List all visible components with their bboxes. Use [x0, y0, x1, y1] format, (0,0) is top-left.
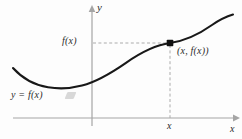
point-marker: [167, 40, 174, 47]
y-axis-arrowhead: [89, 5, 96, 12]
y-axis: [89, 5, 96, 126]
x-tick-label: x: [167, 121, 172, 131]
x-axis: [13, 115, 240, 122]
curve-equation-label: y = f(x): [11, 90, 43, 100]
y-value-label: f(x): [62, 36, 77, 46]
x-axis-arrowhead: [233, 115, 240, 122]
function-graph-figure: y x f(x) x (x, f(x)) y = f(x): [0, 0, 242, 139]
point-coordinate-label: (x, f(x)): [177, 46, 209, 56]
x-axis-label: x: [230, 124, 235, 134]
graph-canvas: [0, 0, 242, 139]
y-axis-label: y: [97, 2, 102, 13]
